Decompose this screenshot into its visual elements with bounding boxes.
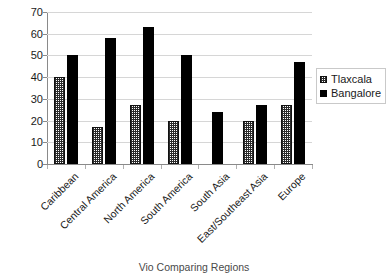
bar-bangalore	[294, 62, 305, 164]
y-tick-mark	[43, 99, 47, 100]
gridline	[47, 55, 312, 56]
y-tick-mark	[43, 12, 47, 13]
legend-item-tlaxcala[interactable]: Tlaxcala	[320, 72, 381, 86]
y-axis-tick-labels: 010203040506070	[0, 0, 43, 270]
y-tick-mark	[43, 77, 47, 78]
bar-bangalore	[212, 112, 223, 164]
y-tick-mark	[43, 142, 47, 143]
y-tick-mark	[43, 164, 47, 165]
gridline	[47, 77, 312, 78]
y-tick-label: 30	[3, 94, 43, 105]
x-tick-label: East/Southeast Asia	[195, 170, 270, 245]
y-tick-label: 40	[3, 72, 43, 83]
gridline	[47, 142, 312, 143]
x-tick-mark	[123, 165, 124, 169]
x-tick-mark	[47, 165, 48, 169]
x-tick-mark	[312, 165, 313, 169]
bar-bangalore	[105, 38, 116, 164]
legend-item-bangalore[interactable]: Bangalore	[320, 86, 381, 100]
gridline	[47, 99, 312, 100]
x-axis-line	[47, 164, 313, 165]
bar-bangalore	[143, 27, 154, 164]
x-tick-mark	[161, 165, 162, 169]
x-tick-label: Europe	[275, 170, 307, 202]
x-tick-mark	[198, 165, 199, 169]
legend-swatch-icon-tlaxcala	[320, 76, 327, 83]
y-tick-label: 70	[3, 7, 43, 18]
legend-label-tlaxcala: Tlaxcala	[331, 74, 372, 85]
x-tick-mark	[274, 165, 275, 169]
y-tick-mark	[43, 55, 47, 56]
legend: Tlaxcala Bangalore	[316, 68, 386, 104]
bar-bangalore	[67, 55, 78, 164]
bar-tlaxcala	[54, 77, 65, 164]
bar-tlaxcala	[92, 127, 103, 164]
x-axis-title: Vio Comparing Regions	[0, 261, 388, 273]
y-tick-label: 0	[3, 159, 43, 170]
bar-bangalore	[256, 105, 267, 164]
y-tick-label: 50	[3, 50, 43, 61]
gridline	[47, 121, 312, 122]
bar-tlaxcala	[281, 105, 292, 164]
gridline	[47, 34, 312, 35]
y-tick-mark	[43, 34, 47, 35]
y-tick-label: 60	[3, 29, 43, 40]
y-tick-mark	[43, 121, 47, 122]
bar-tlaxcala	[243, 121, 254, 164]
bar-tlaxcala	[130, 105, 141, 164]
y-tick-label: 10	[3, 137, 43, 148]
plot-area	[47, 12, 312, 164]
bar-bangalore	[181, 55, 192, 164]
x-tick-mark	[236, 165, 237, 169]
legend-swatch-icon-bangalore	[320, 90, 327, 97]
legend-label-bangalore: Bangalore	[331, 88, 381, 99]
bar-tlaxcala	[168, 121, 179, 164]
y-tick-label: 20	[3, 116, 43, 127]
gridline	[47, 12, 312, 13]
x-tick-mark	[85, 165, 86, 169]
